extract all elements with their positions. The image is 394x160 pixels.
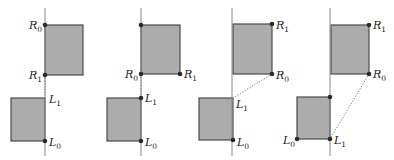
point-label-l0: L0 bbox=[48, 136, 61, 151]
point-marker bbox=[43, 73, 48, 78]
point-marker bbox=[367, 23, 372, 28]
point-marker bbox=[139, 23, 144, 28]
point-label-l1: L1 bbox=[235, 98, 248, 113]
upper-rectangle bbox=[45, 25, 83, 75]
panel-1: R0R1L0L1 bbox=[11, 8, 83, 156]
dotted-connector bbox=[330, 74, 369, 139]
point-label-l1: L1 bbox=[144, 92, 157, 107]
panel-2: R0R1L1L0 bbox=[107, 8, 197, 156]
point-label-r0: R0 bbox=[275, 69, 289, 84]
point-marker bbox=[139, 96, 144, 101]
upper-rectangle bbox=[233, 24, 272, 74]
lower-rectangle bbox=[11, 98, 45, 141]
lower-rectangle bbox=[297, 97, 330, 139]
point-label-r1: R1 bbox=[183, 68, 197, 83]
panel-4: R1R0L0L1 bbox=[282, 8, 386, 156]
point-label-r0: R0 bbox=[372, 68, 386, 83]
point-label-l0: L0 bbox=[236, 136, 249, 151]
point-marker bbox=[367, 72, 372, 77]
dotted-connector bbox=[233, 74, 272, 98]
point-marker bbox=[328, 95, 333, 100]
lower-rectangle bbox=[199, 98, 233, 140]
lower-rectangle bbox=[107, 98, 141, 141]
point-label-l0: L0 bbox=[144, 136, 157, 151]
point-label-l0: L0 bbox=[282, 134, 295, 149]
upper-rectangle bbox=[141, 25, 180, 74]
point-label-r0: R0 bbox=[124, 68, 138, 83]
upper-rectangle bbox=[331, 25, 369, 74]
point-label-l1: L1 bbox=[333, 134, 346, 149]
point-marker bbox=[178, 72, 183, 77]
point-marker bbox=[270, 22, 275, 27]
point-label-r1: R1 bbox=[372, 19, 386, 34]
point-label-r1: R1 bbox=[28, 69, 42, 84]
diagram-canvas: R0R1L0L1R0R1L1L0R1R0L1L0R1R0L0L1 bbox=[0, 0, 394, 160]
point-label-r1: R1 bbox=[275, 19, 289, 34]
point-label-r0: R0 bbox=[28, 19, 42, 34]
point-marker bbox=[231, 138, 236, 143]
point-marker bbox=[43, 23, 48, 28]
point-marker bbox=[139, 139, 144, 144]
point-marker bbox=[139, 72, 144, 77]
point-marker bbox=[295, 137, 300, 142]
point-marker bbox=[43, 139, 48, 144]
point-marker bbox=[270, 72, 275, 77]
panel-3: R1R0L1L0 bbox=[199, 8, 289, 156]
point-label-l1: L1 bbox=[48, 93, 61, 108]
point-marker bbox=[328, 137, 333, 142]
